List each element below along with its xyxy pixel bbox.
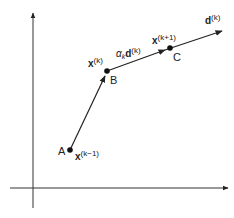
label-step-alpha-d: αkd(k)	[116, 46, 141, 60]
label-x-k: x(k)	[88, 56, 103, 69]
point-a	[67, 147, 73, 153]
iteration-diagram: A x(k−1) B x(k) C x(k+1) αkd(k) d(k)	[0, 0, 234, 218]
label-b: B	[110, 74, 117, 86]
label-a: A	[58, 145, 66, 157]
point-b	[104, 68, 110, 74]
point-c	[167, 45, 173, 51]
label-x-k-plus-1: x(k+1)	[152, 33, 176, 46]
segment-a-b	[70, 76, 105, 150]
label-x-k-minus-1: x(k−1)	[75, 149, 99, 162]
label-c: C	[173, 51, 181, 63]
label-direction-d: d(k)	[205, 13, 221, 26]
